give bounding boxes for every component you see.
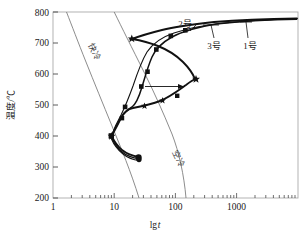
svg-text:lgt: lgt: [150, 220, 161, 230]
x-tick-1000: 1000: [227, 202, 246, 212]
y-tick-600: 600: [35, 69, 50, 79]
series-label-1: 1号: [243, 41, 257, 51]
y-tick-400: 400: [35, 131, 50, 141]
x-tick-labels: 1 10 100 1000: [51, 202, 247, 212]
series-label-2: 2号: [178, 19, 192, 29]
y-tick-800: 800: [35, 8, 50, 18]
plot-frame: [53, 12, 298, 198]
x-axis-title-lg: lg: [150, 220, 158, 230]
y-tick-500: 500: [35, 100, 50, 110]
y-axis-title-text: 温度/℃: [5, 90, 16, 120]
y-axis-title: 温度/℃: [5, 90, 16, 120]
x-axis-title: lgt: [150, 220, 161, 230]
x-tick-1: 1: [51, 202, 56, 212]
ttt-diagram: 200 300 400 500 600 700 800: [0, 0, 308, 243]
y-tick-300: 300: [35, 162, 50, 172]
x-tick-100: 100: [168, 202, 183, 212]
x-axis-title-t: t: [158, 220, 161, 230]
y-tick-700: 700: [35, 38, 50, 48]
x-tick-10: 10: [109, 202, 119, 212]
series-label-3: 3号: [207, 41, 221, 51]
y-tick-200: 200: [35, 193, 50, 203]
y-tick-labels: 200 300 400 500 600 700 800: [35, 8, 50, 203]
